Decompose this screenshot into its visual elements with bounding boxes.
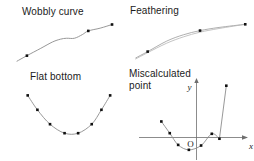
data-point-marker (26, 54, 29, 57)
data-point-marker (188, 149, 191, 152)
data-point-marker (168, 132, 171, 135)
data-point-marker (63, 132, 66, 135)
wobbly-curve-plot (14, 16, 119, 66)
panel-miscalculated-point: Miscalculated point y x O (127, 66, 254, 161)
data-point-marker (225, 84, 228, 87)
data-point-marker (177, 144, 180, 147)
panel-feathering: Feathering (127, 0, 254, 68)
miscalculated-point-plot: y x O (139, 78, 254, 160)
feathering-curve-a (136, 24, 245, 58)
data-point-marker (111, 23, 114, 26)
feathering-curve-b (136, 24, 245, 59)
x-axis-label: x (248, 141, 253, 151)
panel-wobbly-curve: Wobbly curve (0, 0, 127, 68)
origin-label: O (187, 139, 194, 149)
data-point-marker (77, 132, 80, 135)
x-axis-arrowhead (242, 135, 248, 139)
data-point-marker (100, 109, 103, 112)
wobbly-curve-line (17, 25, 112, 62)
data-point-marker (200, 144, 203, 147)
data-point-marker (218, 137, 221, 140)
data-point-marker (90, 123, 93, 126)
flat-bottom-curve-line (28, 95, 110, 134)
curve-artifacts-figure: Wobbly curve Feathering Flat bottom Misc… (0, 0, 254, 161)
flat-bottom-plot (14, 86, 119, 148)
data-point-marker (244, 23, 247, 26)
miscalculated-data-points (160, 84, 228, 151)
data-point-marker (26, 94, 29, 97)
panel-title-flat-bottom: Flat bottom (30, 71, 81, 83)
data-point-marker (199, 29, 202, 32)
data-point-marker (210, 133, 213, 136)
data-point-marker (160, 120, 163, 123)
y-axis-label: y (187, 82, 192, 92)
data-point-marker (109, 94, 112, 97)
y-axis-arrowhead (194, 78, 198, 83)
data-point-marker (146, 50, 149, 53)
feathering-plot (127, 14, 254, 64)
data-point-marker (87, 30, 90, 33)
panel-flat-bottom: Flat bottom (0, 66, 127, 161)
data-point-marker (49, 123, 52, 126)
miscalculated-curve-line (161, 86, 226, 150)
data-point-marker (36, 109, 39, 112)
feathering-data-points (146, 23, 246, 53)
